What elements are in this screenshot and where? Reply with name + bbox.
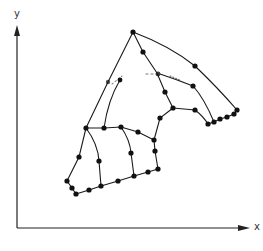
node [157, 115, 162, 120]
node [118, 124, 123, 129]
node [205, 121, 210, 126]
node [190, 83, 195, 88]
node [145, 169, 150, 174]
node [106, 80, 110, 84]
node [115, 178, 120, 183]
axes [14, 25, 250, 231]
node [192, 63, 197, 68]
mesh-diagram [0, 0, 263, 251]
node-apex [130, 29, 135, 34]
node [192, 107, 197, 112]
y-axis-label: y [14, 8, 20, 19]
node [151, 137, 156, 142]
node [64, 178, 69, 183]
node [73, 191, 78, 196]
node [224, 114, 229, 119]
node [140, 49, 145, 54]
node [98, 183, 103, 188]
node [156, 72, 161, 77]
node [155, 166, 160, 171]
y-arrow-icon [14, 25, 20, 36]
x-arrow-icon [238, 225, 250, 231]
node [128, 150, 133, 155]
node [211, 119, 216, 124]
node [217, 116, 222, 121]
mesh-nodes [64, 29, 239, 196]
x-axis-label: x [254, 221, 260, 232]
node [135, 129, 140, 134]
node [96, 158, 101, 163]
node [76, 154, 81, 159]
node [152, 148, 157, 153]
node [83, 125, 88, 130]
node [234, 107, 239, 112]
node [118, 78, 123, 83]
node [101, 125, 106, 130]
node [86, 187, 91, 192]
node [162, 89, 167, 94]
node [170, 105, 175, 110]
mesh-edges [67, 32, 237, 194]
node [131, 173, 136, 178]
node [69, 185, 74, 190]
